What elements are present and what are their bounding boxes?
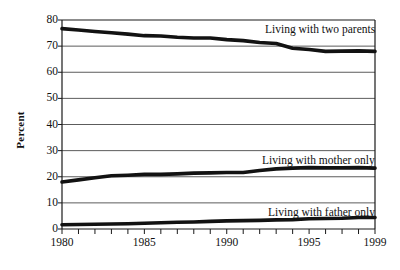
x-tick-label: 1990	[204, 236, 250, 248]
x-tick-label: 1999	[352, 236, 398, 248]
series-label-1: Living with two parents	[265, 23, 375, 35]
x-tick-label: 1980	[39, 236, 85, 248]
plot-area	[0, 0, 400, 270]
series-line-2	[62, 168, 375, 182]
x-tick-label: 1985	[121, 236, 167, 248]
chart-container: Percent 01020304050607080 19801985199019…	[0, 0, 400, 270]
x-tick-label: 1995	[286, 236, 332, 248]
series-line-3	[62, 218, 375, 225]
series-label-2: Living with mother only	[262, 154, 375, 166]
series-label-3: Living with father only	[268, 206, 375, 218]
